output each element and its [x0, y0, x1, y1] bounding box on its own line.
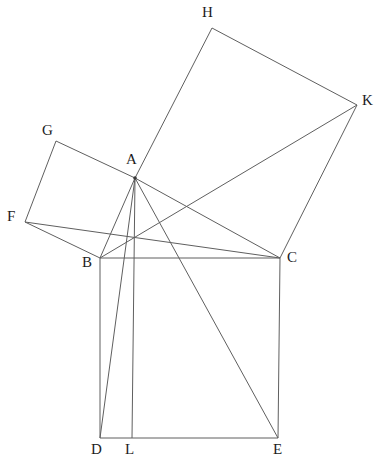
point-label-E: E — [273, 442, 282, 457]
segment-construction-line-AL — [132, 178, 135, 438]
point-label-C: C — [287, 250, 297, 265]
figure-segments — [25, 28, 357, 438]
point-label-D: D — [91, 442, 102, 457]
figure-canvas — [0, 0, 381, 466]
figure-vertex-dots — [133, 176, 137, 180]
geometry-figure: A B C D E F G H K L — [0, 0, 381, 466]
segment-square-BDEC-side-EC — [278, 258, 280, 438]
segment-square-ACKH-side-HK — [212, 28, 357, 105]
vertex-dot-A — [133, 176, 137, 180]
segment-square-ABFG-side-FG — [25, 141, 56, 222]
segment-square-ACKH-side-AH — [135, 28, 212, 178]
point-label-G: G — [42, 123, 53, 138]
point-label-F: F — [7, 209, 15, 224]
point-label-K: K — [362, 93, 373, 108]
point-label-B: B — [82, 255, 92, 270]
point-label-L: L — [125, 442, 134, 457]
segment-square-ABFG-side-GA — [56, 141, 135, 178]
point-label-H: H — [202, 5, 213, 20]
point-label-A: A — [126, 152, 137, 167]
